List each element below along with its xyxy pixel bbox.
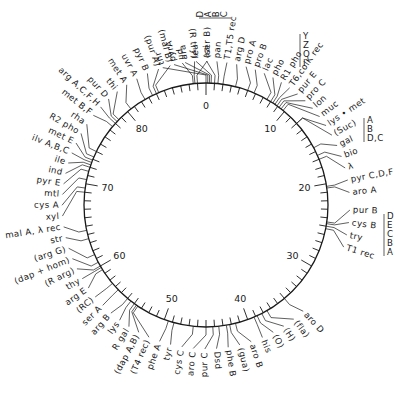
minor-tick (319, 225, 326, 226)
minor-tick (253, 94, 256, 100)
leader-line (264, 73, 271, 99)
minor-tick (134, 298, 138, 304)
locus-label: pyr E (36, 174, 61, 187)
gene-cluster-try: DECBA (384, 211, 394, 257)
gene-cluster-gal: ABD,C (364, 115, 384, 143)
minor-tick (181, 317, 182, 324)
locus-label: bio (343, 145, 360, 159)
major-tick (128, 112, 136, 121)
scale-number: 30 (287, 250, 299, 261)
minor-tick (274, 298, 278, 304)
leader-line (254, 317, 262, 337)
locus-label: (ser B) (202, 27, 212, 59)
minor-tick (121, 288, 126, 293)
leader-line (95, 283, 112, 297)
leader-line (319, 156, 345, 168)
minor-tick (230, 86, 231, 93)
leader-line (271, 78, 275, 102)
leader-line (111, 298, 128, 313)
minor-tick (128, 293, 132, 298)
minor-tick (238, 88, 240, 95)
minor-tick (222, 84, 223, 91)
minor-tick (318, 175, 325, 177)
minor-tick (93, 248, 99, 251)
locus-label: T1 rec (344, 242, 376, 260)
minor-tick (88, 175, 95, 177)
minor-tick (149, 307, 152, 313)
minor-tick (189, 319, 190, 326)
major-tick (301, 260, 311, 266)
leader-line (77, 266, 100, 270)
locus-label: pur B (353, 205, 378, 216)
minor-tick (121, 117, 126, 122)
leader-line (72, 153, 92, 163)
leader-line (327, 223, 349, 225)
scale-number: 60 (113, 250, 125, 261)
major-tick (244, 308, 248, 319)
svg-text:C: C (219, 11, 229, 17)
scale-number: 0 (203, 100, 209, 111)
leader-line (62, 187, 85, 205)
locus-label: pyr C,D,F (350, 166, 395, 183)
minor-tick (291, 282, 296, 287)
leader-line (246, 67, 250, 91)
leader-line (254, 70, 257, 93)
leader-line (64, 169, 89, 184)
leader-line (113, 92, 119, 120)
leader-line (64, 227, 87, 232)
scale-numbers: 01020304050607080 (101, 100, 310, 305)
minor-tick (105, 137, 111, 141)
minor-tick (306, 144, 312, 148)
minor-tick (260, 307, 263, 313)
leader-line (193, 327, 206, 348)
scale-number: 70 (101, 182, 113, 193)
scale-number: 20 (298, 182, 310, 193)
minor-tick (115, 123, 120, 128)
minor-tick (149, 97, 152, 103)
locus-label: (gua) (236, 347, 252, 374)
leader-line (160, 321, 169, 341)
minor-tick (309, 255, 315, 258)
major-tick (277, 112, 285, 121)
locus-label: his (259, 338, 274, 354)
locus-label: ind (47, 164, 63, 177)
minor-tick (100, 144, 106, 148)
leader-line (129, 304, 134, 327)
leader-line (171, 323, 174, 345)
minor-tick (320, 192, 327, 193)
locus-label: Dsd (212, 351, 223, 369)
locus-label: λ (347, 160, 355, 171)
minor-tick (93, 159, 99, 162)
minor-tick (90, 167, 97, 169)
leader-line (262, 314, 284, 327)
minor-tick (318, 233, 325, 235)
minor-tick (164, 90, 166, 97)
minor-tick (245, 90, 247, 97)
locus-label: pan (212, 41, 223, 59)
minor-tick (253, 310, 256, 316)
minor-tick (280, 293, 284, 298)
leader-line (66, 238, 89, 241)
leader-line (194, 61, 195, 83)
leader-line (236, 323, 252, 341)
minor-tick (301, 269, 307, 273)
leader-line (68, 162, 91, 165)
locus-label: pil (175, 48, 187, 61)
minor-tick (105, 269, 111, 273)
minor-tick (315, 241, 322, 243)
leader-line (217, 326, 220, 348)
leader-line (69, 248, 95, 258)
scale-number: 40 (234, 293, 246, 304)
chromosome-circle (84, 83, 328, 327)
leader-line (217, 61, 219, 83)
leader-line (326, 226, 347, 235)
minor-tick (222, 319, 223, 326)
minor-tick (297, 276, 303, 280)
scale-number: 10 (264, 123, 276, 134)
minor-tick (313, 248, 319, 251)
minor-tick (90, 241, 97, 243)
locus-label: aro A (352, 185, 377, 197)
minor-tick (115, 282, 120, 287)
svg-text:I: I (303, 58, 306, 68)
minor-tick (156, 94, 159, 100)
